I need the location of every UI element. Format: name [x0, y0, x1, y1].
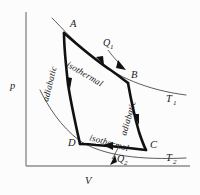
- q1-label-subscript: 1: [110, 43, 114, 51]
- q2-label-subscript: 2: [124, 159, 128, 167]
- t2-label-main: T: [166, 152, 173, 163]
- isotherm-t1-curve: [52, 18, 186, 95]
- point-label-a: A: [69, 18, 77, 29]
- process-label-da-adiabatic: adiabatic: [40, 65, 58, 102]
- heat-flow-q1-indicator: [108, 50, 126, 70]
- process-curve-da-adiabatic: [64, 33, 80, 144]
- p-axis-label: p: [9, 80, 15, 91]
- carnot-cycle-figure: A B C D p V T 1 T 2 Q 1 Q 2 isothermal a…: [0, 0, 200, 195]
- isotherm-label-t2: T 2: [166, 152, 177, 166]
- point-label-d: D: [67, 137, 76, 148]
- t1-label-main: T: [166, 93, 173, 104]
- process-label-ab-isothermal: isothermal: [65, 59, 105, 89]
- point-label-c: C: [150, 139, 158, 150]
- v-axis-label: V: [85, 175, 93, 186]
- point-label-b: B: [131, 69, 138, 80]
- t1-label-subscript: 1: [173, 99, 177, 107]
- pv-diagram-canvas: A B C D p V T 1 T 2 Q 1 Q 2 isothermal a…: [0, 0, 200, 195]
- t2-label-subscript: 2: [173, 158, 177, 166]
- isotherm-label-t1: T 1: [166, 93, 177, 107]
- heat-label-q2: Q 2: [117, 153, 128, 167]
- heat-label-q1: Q 1: [103, 37, 114, 51]
